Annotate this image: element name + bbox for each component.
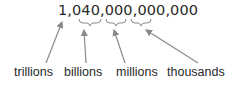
arrow-millions <box>114 30 125 63</box>
label-thousands: thousands <box>167 65 225 79</box>
arrow-thousands <box>146 30 198 63</box>
arrow-trillions <box>46 22 62 63</box>
label-millions: millions <box>116 65 158 79</box>
arrow-billions <box>84 30 86 63</box>
brace-millions <box>106 19 126 26</box>
brace-thousands <box>131 19 151 26</box>
label-trillions: trillions <box>14 65 53 79</box>
label-billions: billions <box>64 65 102 79</box>
brace-billions <box>79 19 101 26</box>
